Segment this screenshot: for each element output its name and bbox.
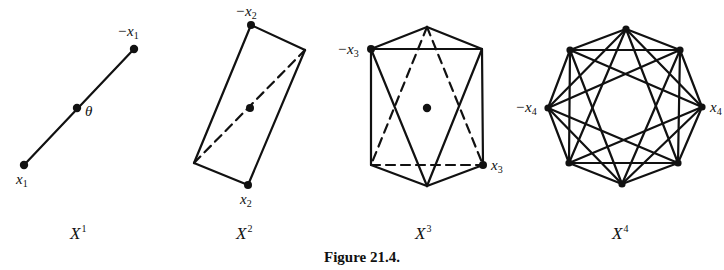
edge: [569, 50, 570, 163]
label-x2: x2: [240, 192, 252, 209]
panel-x2-square: [194, 21, 305, 189]
label-x1: x1: [16, 172, 28, 189]
vertex-dot: [544, 104, 551, 111]
vertex-dot-x3: [479, 161, 487, 169]
caption-x3: X3: [415, 224, 431, 242]
vertex-dot: [674, 159, 681, 166]
label-x3: x3: [491, 158, 503, 175]
vertex-dot-neg-x3: [367, 45, 375, 53]
label-x4: x4: [710, 100, 722, 117]
vertex-dot: [20, 161, 28, 169]
vertex-dot: [130, 45, 138, 53]
panel-x4-cross-polytope: [544, 25, 705, 187]
figure-caption: Figure 21.4.: [0, 249, 724, 266]
edge: [427, 165, 483, 186]
vertex-dot: [618, 180, 625, 187]
vertex-dot: [73, 104, 81, 112]
vertex-dot: [622, 25, 629, 32]
label-neg-x1: −x1: [117, 24, 139, 41]
vertex-dot: [566, 46, 573, 53]
vertex-dot: [698, 103, 705, 110]
edge: [251, 25, 305, 50]
vertex-dot: [676, 46, 683, 53]
vertex-dot-neg-x2: [247, 21, 255, 29]
panel-x1-segment: [20, 45, 138, 169]
center-dot: [246, 104, 254, 112]
label-neg-x4: −x4: [515, 100, 537, 117]
caption-x1: X1: [70, 224, 86, 242]
caption-x4: X4: [612, 224, 628, 242]
label-neg-x3: −x3: [337, 42, 359, 59]
label-theta: θ: [85, 104, 92, 119]
caption-x2: X2: [236, 224, 252, 242]
edge: [194, 163, 248, 185]
edge: [678, 50, 680, 163]
label-neg-x2: −x2: [235, 4, 257, 21]
edge: [194, 25, 251, 163]
vertex-dot-x2: [244, 181, 252, 189]
edge: [548, 108, 678, 163]
hidden-edge: [371, 27, 427, 165]
center-dot: [423, 104, 431, 112]
panel-x3-octahedron: [367, 27, 487, 186]
hidden-edge: [427, 27, 483, 165]
edge: [482, 49, 483, 165]
vertex-dot: [565, 159, 572, 166]
edge: [248, 50, 305, 185]
